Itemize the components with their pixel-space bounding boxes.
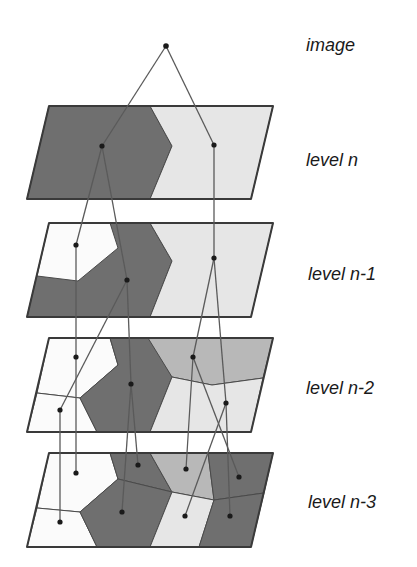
region-dark xyxy=(27,106,172,199)
region-node xyxy=(57,407,62,412)
label-level-n-3: level n-3 xyxy=(308,493,376,511)
region-node xyxy=(119,509,124,514)
region-node xyxy=(73,470,78,475)
region-node xyxy=(236,474,241,479)
label-level-n-2: level n-2 xyxy=(306,379,374,397)
region-node xyxy=(182,513,187,518)
region-node xyxy=(128,381,133,386)
region-node xyxy=(57,519,62,524)
region-node xyxy=(223,400,228,405)
region-node xyxy=(135,462,140,467)
level-plane-1 xyxy=(27,223,273,317)
region-node xyxy=(211,255,216,260)
level-plane-2 xyxy=(27,338,273,432)
region-node xyxy=(73,242,78,247)
level-plane-3 xyxy=(27,453,273,547)
level-plane-0 xyxy=(27,106,273,199)
label-level-n: level n xyxy=(306,151,358,169)
region-node xyxy=(73,354,78,359)
region-node xyxy=(211,142,216,147)
region-node xyxy=(99,143,104,148)
region-node xyxy=(124,277,129,282)
region-node xyxy=(183,466,188,471)
region-node xyxy=(190,354,195,359)
root-node xyxy=(163,43,169,49)
label-level-n-1: level n-1 xyxy=(308,265,376,283)
region-node xyxy=(227,513,232,518)
label-image: image xyxy=(306,36,355,54)
segmentation-levels xyxy=(27,106,273,547)
